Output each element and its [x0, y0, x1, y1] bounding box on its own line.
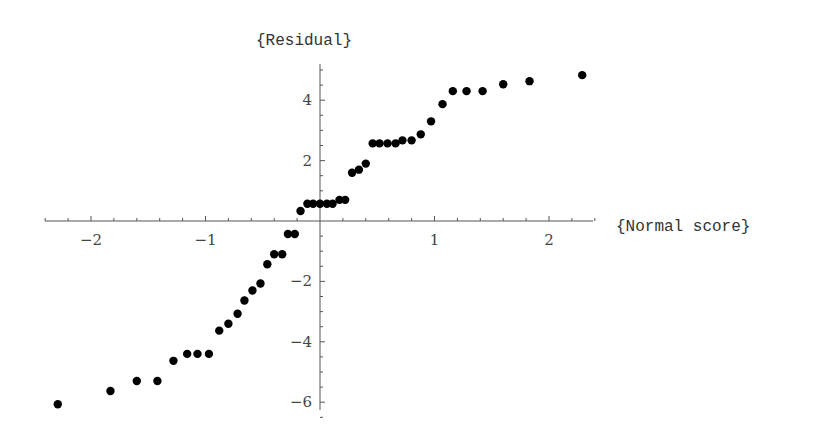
- tick-labels: −2−112−6−4−224: [80, 91, 554, 411]
- x-axis-label: {Normal score}: [616, 218, 750, 236]
- data-point: [291, 230, 299, 238]
- data-point: [133, 377, 141, 385]
- data-point: [193, 350, 201, 358]
- data-point: [462, 87, 470, 95]
- data-point: [248, 286, 256, 294]
- data-point: [578, 71, 586, 79]
- data-point: [407, 136, 415, 144]
- data-point: [478, 87, 486, 95]
- x-tick-label: −2: [80, 231, 102, 249]
- data-point: [169, 357, 177, 365]
- y-tick-label: −6: [290, 393, 312, 411]
- data-point: [205, 350, 213, 358]
- data-point: [375, 139, 383, 147]
- data-point: [215, 326, 223, 334]
- data-point: [240, 296, 248, 304]
- data-point: [263, 260, 271, 268]
- data-point: [417, 130, 425, 138]
- data-point: [525, 77, 533, 85]
- scatter-plot: −2−112−6−4−224 {Residual} {Normal score}: [0, 0, 818, 438]
- y-tick-label: 2: [302, 152, 312, 170]
- y-tick-label: −4: [290, 333, 312, 351]
- data-point: [499, 80, 507, 88]
- data-point: [449, 87, 457, 95]
- data-point: [233, 310, 241, 318]
- data-point: [438, 100, 446, 108]
- data-point: [398, 136, 406, 144]
- y-tick-label: −2: [290, 272, 312, 290]
- data-point: [278, 250, 286, 258]
- data-point: [153, 377, 161, 385]
- data-point: [362, 159, 370, 167]
- data-point: [54, 400, 62, 408]
- x-tick-label: 1: [430, 231, 440, 249]
- data-point: [224, 319, 232, 327]
- data-point: [256, 279, 264, 287]
- data-point: [106, 387, 114, 395]
- data-point: [296, 207, 304, 215]
- data-point: [427, 117, 435, 125]
- data-point: [383, 139, 391, 147]
- data-point: [270, 250, 278, 258]
- y-tick-label: 4: [302, 91, 312, 109]
- x-tick-label: 2: [544, 231, 554, 249]
- x-tick-label: −1: [194, 231, 216, 249]
- axes: [45, 64, 593, 410]
- data-point: [355, 165, 363, 173]
- data-point: [183, 350, 191, 358]
- data-point: [341, 196, 349, 204]
- y-axis-label: {Residual}: [256, 32, 352, 50]
